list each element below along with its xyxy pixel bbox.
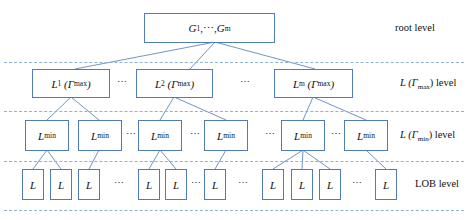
root-node: G1,⋯, Gm [144,13,275,43]
leaf-node: L [262,169,284,200]
gamma-min-node: Lmin [138,120,182,151]
leaf-node: L [204,169,226,200]
leaf-node: L [22,169,44,200]
gamma-max-node: L1 (Γmax) [32,69,110,98]
ellipsis: ⋯ [190,128,200,139]
gamma-max-node: L2 (Γmax) [136,69,213,98]
ellipsis: ⋯ [117,76,127,87]
leaf-node: L [165,169,187,200]
level-divider [4,161,464,162]
leaf-node: L [78,169,100,200]
gamma-min-node: Lmin [204,120,248,151]
ellipsis: ⋯ [240,76,250,87]
leaf-node: L [319,169,341,200]
gamma-max-level-label: L (Γmax) level [400,77,456,91]
gamma-min-node: Lmin [25,120,69,151]
leaf-node: L [50,169,72,200]
level-divider [4,62,464,63]
leaf-node: L [375,169,397,200]
gamma-min-node: Lmin [281,120,325,151]
ellipsis: ⋯ [265,128,275,139]
gamma-min-level-label: L (Γmin) level [400,129,455,143]
level-divider [4,210,464,211]
leaf-node: L [138,169,160,200]
gamma-min-node: Lmin [344,120,388,151]
ellipsis: ⋯ [331,128,341,139]
ellipsis: ⋯ [191,177,201,188]
ellipsis: ⋯ [114,177,124,188]
lob-level-label: LOB level [415,178,459,189]
gamma-min-node: Lmin [78,120,122,151]
ellipsis: ⋯ [126,128,136,139]
root-level-label: root level [395,22,435,33]
level-divider [4,111,464,112]
ellipsis: ⋯ [238,177,248,188]
gamma-max-node: Lm (Γmax) [274,69,353,98]
leaf-node: L [291,169,313,200]
hierarchy-diagram: G1,⋯, Gm root level L1 (Γmax) ⋯ L2 (Γmax… [0,0,470,220]
ellipsis: ⋯ [352,177,362,188]
